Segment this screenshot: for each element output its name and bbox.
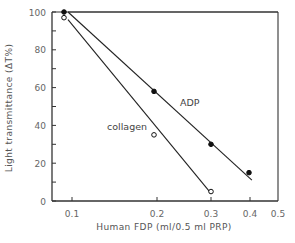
y-tick-label: 40: [35, 121, 47, 131]
y-axis-label: Light transmittance (ΔT%): [4, 44, 14, 173]
data-point-collagen: [152, 133, 157, 138]
x-tick-label: 0.3: [204, 209, 218, 219]
y-tick-label: 0: [40, 197, 46, 207]
y-tick-label: 80: [35, 45, 47, 55]
x-axis-ticks: 0.10.20.30.40.5: [65, 197, 285, 219]
data-point-adp: [152, 89, 157, 94]
x-tick-label: 0.1: [65, 209, 79, 219]
x-axis-label: Human FDP (ml/0.5 ml PRP): [96, 222, 231, 232]
data-point-collagen: [209, 189, 214, 194]
y-tick-label: 20: [35, 159, 47, 169]
fit-lines: [68, 12, 278, 193]
data-point-adp: [62, 10, 67, 15]
x-tick-label: 0.2: [150, 209, 164, 219]
fit-line-adp: [68, 12, 252, 180]
series-label-adp: ADP: [180, 97, 200, 108]
x-tick-label: 0.5: [271, 209, 285, 219]
y-tick-label: 100: [29, 8, 46, 18]
data-point-adp: [247, 170, 252, 175]
data-point-collagen: [62, 15, 67, 20]
data-point-adp: [209, 142, 214, 147]
data-points: [62, 10, 252, 194]
y-tick-label: 60: [35, 83, 47, 93]
series-label-collagen: collagen: [107, 121, 147, 132]
x-tick-label: 0.4: [243, 209, 258, 219]
chart: 020406080100 0.10.20.30.40.5 ADP collage…: [0, 0, 295, 243]
